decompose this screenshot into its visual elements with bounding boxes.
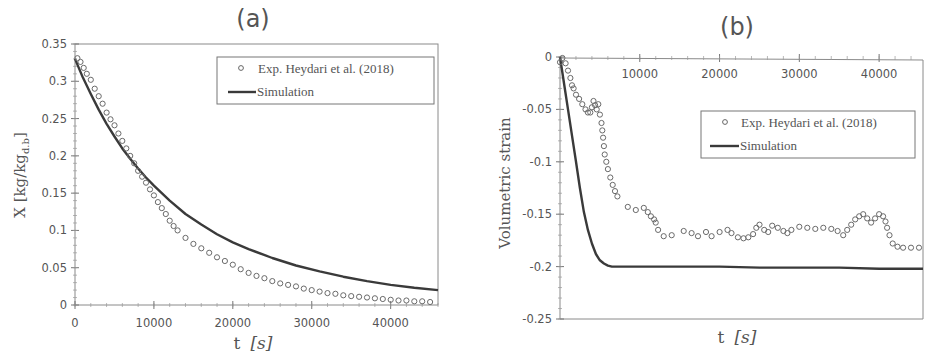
data-point-marker: [695, 234, 700, 239]
data-point-marker: [325, 291, 330, 296]
data-point-marker: [885, 225, 890, 230]
data-point-marker: [278, 281, 283, 286]
data-point-marker: [175, 228, 180, 233]
data-point-marker: [604, 159, 609, 164]
data-point-marker: [916, 245, 921, 250]
data-point-marker: [286, 282, 291, 287]
data-point-marker: [163, 211, 168, 216]
data-point-marker: [599, 120, 604, 125]
data-point-marker: [565, 68, 570, 73]
x-tick-label: 10000: [621, 67, 658, 81]
y-tick-label: 0.25: [41, 112, 67, 126]
data-point-marker: [869, 220, 874, 225]
y-tick-label: -0.1: [530, 155, 552, 169]
data-point-marker: [112, 123, 117, 128]
data-point-marker: [605, 167, 610, 172]
data-point-marker: [835, 228, 840, 233]
panel-b-top-axis: [560, 58, 923, 60]
data-point-marker: [396, 298, 401, 303]
x-tick-label: 30000: [293, 316, 330, 330]
panel-b-strain-chart: (b) 0-0.05-0.1-0.15-0.2-0.25 10000200003…: [496, 13, 923, 347]
data-point-marker: [577, 96, 582, 101]
data-point-marker: [661, 234, 666, 239]
data-point-marker: [908, 245, 913, 250]
data-point-marker: [873, 216, 878, 221]
x-tick-label: 20000: [701, 67, 738, 81]
data-point-marker: [147, 187, 152, 192]
data-point-marker: [805, 225, 810, 230]
data-point-marker: [600, 128, 605, 133]
data-point-marker: [569, 83, 574, 88]
x-tick-label: 40000: [861, 67, 898, 81]
data-point-marker: [883, 219, 888, 224]
data-point-marker: [167, 218, 172, 223]
data-point-marker: [821, 225, 826, 230]
data-point-marker: [116, 131, 121, 136]
data-point-marker: [890, 241, 895, 246]
data-point-marker: [568, 75, 573, 80]
data-point-marker: [746, 235, 751, 240]
data-point-marker: [775, 225, 780, 230]
panel-b-y-axis-label: Volumetric strain: [496, 117, 514, 250]
data-point-marker: [656, 227, 661, 232]
data-point-marker: [341, 293, 346, 298]
data-point-marker: [757, 222, 762, 227]
figure: (a) 00.050.10.150.20.250.30.35 010000200…: [0, 0, 933, 364]
data-point-marker: [222, 258, 227, 263]
data-point-marker: [901, 245, 906, 250]
panel-b-x-axis-label: t[s]: [718, 327, 757, 347]
data-point-marker: [78, 59, 83, 64]
data-point-marker: [612, 189, 617, 194]
data-point-marker: [199, 246, 204, 251]
data-point-marker: [143, 180, 148, 185]
data-point-marker: [580, 102, 585, 107]
data-point-marker: [301, 286, 306, 291]
data-point-marker: [230, 262, 235, 267]
panel-a-title: (a): [236, 5, 269, 33]
data-point-marker: [309, 288, 314, 293]
data-point-marker: [88, 77, 93, 82]
data-point-marker: [571, 86, 576, 91]
y-tick-label: -0.15: [522, 207, 552, 221]
data-point-marker: [191, 241, 196, 246]
panel-b-title: (b): [720, 13, 754, 41]
data-point-marker: [751, 232, 756, 237]
x-tick-label: 40000: [372, 316, 409, 330]
data-point-marker: [254, 273, 259, 278]
data-point-marker: [633, 207, 638, 212]
x-tick-label: 10000: [136, 316, 173, 330]
data-point-marker: [729, 231, 734, 236]
panel-a-legend: Exp. Heydari et al. (2018) Simulation: [217, 57, 434, 104]
data-point-marker: [709, 234, 714, 239]
data-point-marker: [597, 112, 602, 117]
data-point-marker: [735, 235, 740, 240]
panel-a-legend-sim-label: Simulation: [257, 84, 315, 99]
y-tick-label: 0.35: [41, 37, 67, 51]
data-point-marker: [829, 226, 834, 231]
data-point-marker: [124, 146, 129, 151]
y-tick-label: 0: [545, 50, 552, 64]
data-point-marker: [349, 294, 354, 299]
data-point-marker: [841, 233, 846, 238]
data-point-marker: [669, 233, 674, 238]
data-point-marker: [84, 71, 89, 76]
data-point-marker: [797, 224, 802, 229]
data-point-marker: [703, 229, 708, 234]
data-point-marker: [602, 152, 607, 157]
data-point-marker: [171, 223, 176, 228]
data-point-marker: [380, 296, 385, 301]
y-tick-label: -0.25: [522, 312, 552, 326]
data-point-marker: [183, 235, 188, 240]
x-tick-label: 0: [71, 316, 78, 330]
data-point-marker: [625, 204, 630, 209]
data-point-marker: [333, 291, 338, 296]
panel-a-x-axis-label: t[s]: [234, 333, 273, 353]
data-point-marker: [428, 299, 433, 304]
data-point-marker: [270, 279, 275, 284]
panel-a-moisture-chart: (a) 00.050.10.150.20.250.30.35 010000200…: [11, 5, 438, 353]
data-point-marker: [214, 255, 219, 260]
data-point-marker: [207, 250, 212, 255]
data-point-marker: [615, 194, 620, 199]
data-point-marker: [601, 135, 606, 140]
data-point-marker: [120, 138, 125, 143]
